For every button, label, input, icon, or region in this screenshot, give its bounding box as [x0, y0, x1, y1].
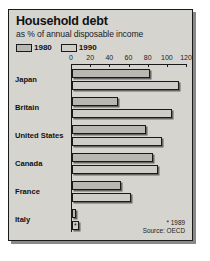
bar-1990 — [72, 137, 162, 146]
bar-1980 — [72, 69, 150, 78]
category-label: Britain — [15, 103, 39, 112]
plot-area: 020406080100120 JapanBritainUnited State… — [9, 54, 192, 236]
bar-1980 — [72, 125, 146, 134]
x-axis-tick-mark — [90, 64, 91, 67]
chart-card: Household debt as % of annual disposable… — [8, 9, 193, 241]
bar-1980 — [72, 153, 153, 162]
legend-swatch-icon-1990 — [61, 44, 77, 52]
category-label: Italy — [15, 215, 30, 224]
footnote-source: Source: OECD — [143, 227, 185, 235]
x-axis-tick-mark — [109, 64, 110, 67]
x-axis-tick-label: 120 — [180, 54, 192, 61]
bar-pair — [72, 69, 186, 90]
bar-group: Japan — [9, 67, 192, 95]
bar-pair — [72, 153, 186, 174]
bar-pair — [72, 125, 186, 146]
bar-pair — [72, 97, 186, 118]
x-axis-tick-mark — [167, 64, 168, 67]
bar-1990 — [72, 109, 172, 118]
chart-subtitle: as % of annual disposable income — [16, 29, 192, 40]
bar-1990 — [72, 193, 131, 202]
bar-groups: JapanBritainUnited StatesCanadaFranceIta… — [9, 67, 192, 236]
x-axis-tick-mark — [129, 64, 130, 67]
legend-item-1990: 1990 — [61, 43, 97, 52]
category-label: Canada — [15, 159, 42, 168]
bar-group: Britain — [9, 95, 192, 123]
bar-1990 — [72, 165, 158, 174]
x-axis-tick-label: 60 — [125, 54, 133, 61]
title-block: Household debt as % of annual disposable… — [9, 10, 192, 40]
x-axis-tick-label: 80 — [144, 54, 152, 61]
footnote-asterisk: * 1989 — [143, 219, 185, 227]
x-axis-tick-mark — [148, 64, 149, 67]
x-axis-tick-label: 40 — [105, 54, 113, 61]
legend-item-1980: 1980 — [16, 43, 52, 52]
chart-legend: 1980 1990 — [9, 43, 192, 52]
footnote: * 1989 Source: OECD — [143, 219, 185, 235]
legend-label-1980: 1980 — [34, 43, 52, 52]
x-axis-tick-label: 100 — [161, 54, 173, 61]
bar-1980 — [72, 97, 118, 106]
bar-1990: * — [72, 221, 79, 230]
bar-group: Canada — [9, 151, 192, 179]
bar-pair — [72, 181, 186, 202]
chart-title: Household debt — [16, 15, 192, 28]
category-label: Japan — [15, 75, 37, 84]
bar-group: United States — [9, 123, 192, 151]
bar-group: France — [9, 179, 192, 207]
x-axis-tick-label: 0 — [69, 54, 73, 61]
bar-1980 — [72, 181, 121, 190]
bar-1990 — [72, 81, 179, 90]
bar-1980 — [72, 209, 76, 218]
x-axis-tick-mark — [71, 64, 72, 67]
x-axis-tick-labels: 020406080100120 — [71, 54, 186, 64]
legend-label-1990: 1990 — [79, 43, 97, 52]
legend-swatch-icon-1980 — [16, 44, 32, 52]
category-label: France — [15, 187, 40, 196]
bar-asterisk-marker: * — [74, 221, 77, 230]
x-axis-tick-label: 20 — [86, 54, 94, 61]
x-axis-tick-mark — [186, 64, 187, 67]
category-label: United States — [15, 131, 64, 140]
